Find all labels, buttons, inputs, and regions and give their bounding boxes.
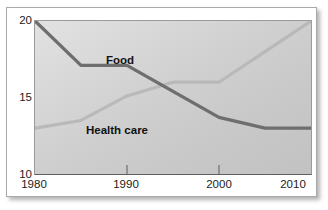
- y-axis-tick-20: 20: [10, 14, 32, 26]
- x-axis-tick-marks: [127, 165, 219, 174]
- series-label-food: Food: [106, 54, 134, 66]
- x-axis-tick-2000: 2000: [201, 178, 237, 190]
- series-label-health-care: Health care: [86, 124, 148, 136]
- chart-plot-svg: [35, 21, 311, 174]
- x-axis-tick-1980: 1980: [16, 178, 52, 190]
- series-line-food: [35, 21, 311, 128]
- chart-title-strip: [0, 0, 328, 7]
- x-axis-tick-2010: 2010: [275, 178, 311, 190]
- x-axis-tick-1990: 1990: [108, 178, 144, 190]
- y-axis-tick-15: 15: [10, 91, 32, 103]
- series-line-health-care: [35, 21, 311, 128]
- figure-card: 20 15 10 Food Health care 1980 1990 2000…: [6, 7, 317, 197]
- plot-area: [34, 20, 312, 175]
